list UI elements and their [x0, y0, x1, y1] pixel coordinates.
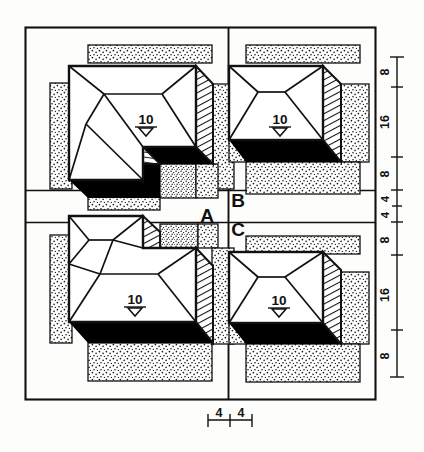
shadow-top-right: [229, 140, 341, 162]
house-top-right: 10: [229, 45, 369, 194]
right-dim-seg-4: 4: [379, 195, 391, 202]
site-plan-svg: 10: [0, 0, 424, 452]
yard-south-top-right: [246, 162, 360, 194]
yard-northeast2-bottom-left: [198, 224, 218, 248]
elevation-value-top-right: 10: [272, 112, 287, 127]
yard-east-bottom-right: [341, 272, 369, 344]
right-dim-seg-3: 8: [378, 170, 392, 177]
wall-hatch-upper-bottom-left: [143, 216, 160, 252]
zone-label-c: C: [231, 219, 245, 240]
shadow-bottom-right: [229, 323, 341, 344]
right-dim-seg-6: 8: [378, 236, 392, 243]
house-top-left: 10: [50, 45, 234, 210]
yard-east-top-right: [341, 84, 369, 162]
yard-north-top-right: [246, 45, 360, 63]
right-dim-seg-2: 16: [378, 115, 392, 129]
house-bottom-left: 10: [50, 216, 234, 381]
zone-label-a: A: [200, 205, 214, 226]
right-dim-seg-7: 16: [378, 288, 392, 302]
yard-south-b-top-left: [196, 164, 218, 198]
right-dim-seg-5: 4: [379, 211, 391, 218]
bottom-dimension-chain: 4 4: [208, 406, 252, 427]
site-plan-drawing: 10: [0, 0, 424, 452]
wall-hatch-east-top-left: [196, 66, 213, 164]
house-bottom-right: 10: [229, 236, 369, 382]
yard-south-bottom-left: [88, 343, 212, 381]
right-dimension-chain: 8 16 8 4 4 8 16 8: [378, 57, 404, 377]
elevation-value-top-left: 10: [138, 112, 153, 127]
yard-south-c-top-left: [88, 196, 160, 210]
elevation-value-bottom-left: 10: [127, 292, 142, 307]
yard-south-bottom-right: [246, 344, 360, 382]
bottom-dim-seg-2: 4: [238, 406, 245, 420]
shadow-bottom-left: [69, 322, 213, 343]
yard-north-top-left: [88, 45, 212, 63]
zone-label-b: B: [231, 190, 245, 211]
bottom-dim-seg-1: 4: [216, 406, 223, 420]
yard-south-a-top-left: [160, 164, 196, 198]
right-dim-seg-1: 8: [378, 68, 392, 75]
yard-northeast-bottom-left: [160, 224, 198, 248]
elevation-value-bottom-right: 10: [271, 293, 286, 308]
right-dim-seg-8: 8: [378, 352, 392, 359]
